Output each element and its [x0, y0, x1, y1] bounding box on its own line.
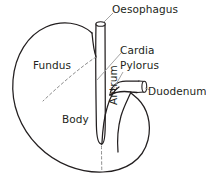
label-antrum: Antrum — [108, 65, 119, 105]
oesophagus-left-wall — [96, 24, 102, 144]
duodenum-opening-ellipse — [142, 81, 147, 92]
oesophagus-opening-ellipse — [96, 22, 105, 27]
label-oesophagus: Oesophagus — [112, 4, 178, 15]
label-duodenum: Duodenum — [148, 86, 206, 97]
antrum-outer-wall — [118, 92, 131, 152]
label-fundus: Fundus — [33, 60, 71, 71]
label-cardia: Cardia — [120, 45, 155, 56]
label-pylorus: Pylorus — [120, 60, 159, 71]
label-body: Body — [62, 114, 89, 125]
stomach-diagram-canvas: Oesophagus Cardia Pylorus Duodenum Fundu… — [0, 0, 206, 189]
